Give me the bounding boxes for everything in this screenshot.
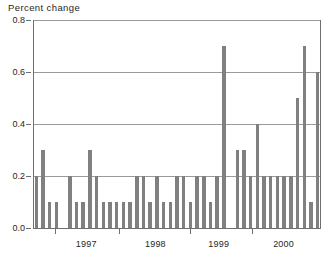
y-axis: 0.00.20.40.60.8 <box>0 20 31 228</box>
plot-frame <box>33 20 321 228</box>
x-tick-label-2000: 2000 <box>273 239 294 249</box>
x-tick-mark-0 <box>55 228 56 234</box>
x-tick-label-1998: 1998 <box>145 239 166 249</box>
percent-change-bar-chart: Percent change 0.00.20.40.60.8 199719981… <box>0 0 327 258</box>
plot-area <box>33 20 321 228</box>
x-tick-mark-3 <box>252 228 253 234</box>
x-axis: 1997199819992000 <box>33 228 321 258</box>
y-tick-mark-0.0 <box>26 228 31 229</box>
y-tick-mark-0.2 <box>26 176 31 177</box>
x-tick-label-1999: 1999 <box>208 239 229 249</box>
x-tick-mark-1 <box>119 228 120 234</box>
y-tick-label-0.8: 0.8 <box>12 16 25 25</box>
x-tick-mark-2 <box>190 228 191 234</box>
y-tick-label-0.6: 0.6 <box>12 68 25 77</box>
y-tick-mark-0.6 <box>26 72 31 73</box>
y-tick-mark-0.4 <box>26 124 31 125</box>
x-tick-label-1997: 1997 <box>76 239 97 249</box>
y-tick-mark-0.8 <box>26 20 31 21</box>
y-tick-label-0.0: 0.0 <box>12 224 25 233</box>
y-tick-label-0.4: 0.4 <box>12 120 25 129</box>
plot-frame-right-edge <box>320 20 321 228</box>
chart-title: Percent change <box>8 2 80 13</box>
plot-frame-left-edge <box>33 20 34 228</box>
y-tick-label-0.2: 0.2 <box>12 172 25 181</box>
